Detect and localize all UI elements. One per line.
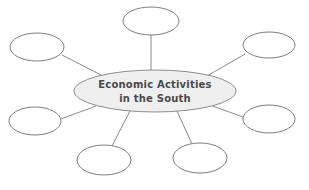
connector-top-left — [62, 55, 103, 76]
connector-top-right — [207, 54, 245, 76]
connector-bottom-left — [112, 111, 130, 146]
outer-node-top-right[interactable] — [243, 32, 295, 58]
center-node-label-line-1: Economic Activities — [98, 79, 211, 90]
center-node-label-line-2: in the South — [119, 93, 191, 104]
connector-left-middle — [61, 106, 96, 119]
concept-map-svg: Economic Activities in the South — [0, 0, 309, 190]
outer-node-top-left[interactable] — [10, 33, 64, 61]
concept-map-canvas: Economic Activities in the South — [0, 0, 309, 190]
connector-bottom-right — [177, 111, 192, 144]
outer-node-top-center[interactable] — [123, 7, 179, 35]
node-ellipse[interactable] — [173, 143, 227, 173]
node-ellipse[interactable] — [77, 145, 131, 175]
node-ellipse[interactable] — [9, 107, 61, 135]
center-node-ellipse[interactable] — [74, 70, 236, 112]
outer-node-right-middle[interactable] — [243, 105, 295, 133]
outer-node-bottom-right[interactable] — [173, 143, 227, 173]
center-node[interactable]: Economic Activities in the South — [74, 70, 236, 112]
outer-node-bottom-left[interactable] — [77, 145, 131, 175]
node-ellipse[interactable] — [123, 7, 179, 35]
outer-node-left-middle[interactable] — [9, 107, 61, 135]
connector-right-middle — [210, 105, 243, 117]
node-ellipse[interactable] — [10, 33, 64, 61]
node-ellipse[interactable] — [243, 32, 295, 58]
node-ellipse[interactable] — [243, 105, 295, 133]
